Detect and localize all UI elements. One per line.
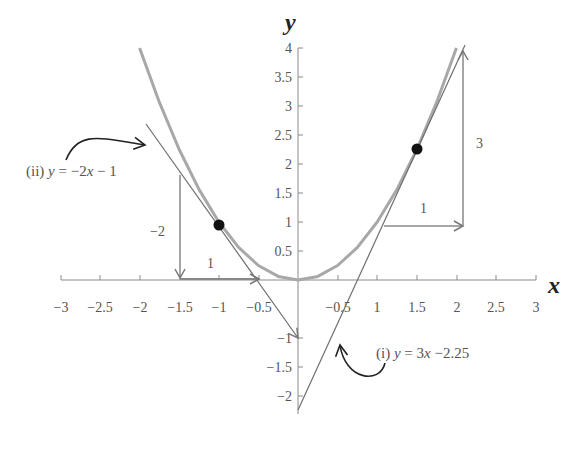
x-tick-label: −3 <box>54 300 69 315</box>
tangent-lines-chart: −3−2.5−2−1.5−1−0.5−0.511.522.53 43.532.5… <box>0 0 581 458</box>
x-tick-label: −2.5 <box>87 300 112 315</box>
run-label-ii: 1 <box>207 256 214 271</box>
x-tick-label: 2 <box>454 300 461 315</box>
y-tick-label: 1.5 <box>275 186 293 201</box>
x-tick-label: 1.5 <box>408 300 426 315</box>
x-tick-label: −2 <box>133 300 148 315</box>
y-tick-label: 1 <box>285 215 292 230</box>
rise-label-ii: −2 <box>150 224 165 239</box>
tangent-point-i <box>412 144 423 155</box>
tangent-point-ii <box>214 220 225 231</box>
y-tick-label: 3.5 <box>275 70 293 85</box>
equation-label-ii: (ii) y = −2x − 1 <box>26 163 117 180</box>
equation-label-i: (i) y = 3x −2.25 <box>376 345 469 362</box>
y-axis-title: y <box>282 9 296 35</box>
x-tick-label: −1 <box>212 300 227 315</box>
pointer-arrow-ii-icon <box>66 138 145 160</box>
y-tick-label: −1.5 <box>267 360 292 375</box>
x-tick-label: 2.5 <box>487 300 505 315</box>
rise-label-i: 3 <box>476 136 483 151</box>
x-axis-title: x <box>547 272 560 298</box>
x-tick-label: −0.5 <box>246 300 271 315</box>
x-tick-label: 3 <box>533 300 540 315</box>
y-tick-label: −1 <box>277 331 292 346</box>
y-tick-label: 3 <box>285 99 292 114</box>
x-tick-label: −1.5 <box>167 300 192 315</box>
x-tick-label: 1 <box>374 300 381 315</box>
y-tick-label: 2 <box>285 157 292 172</box>
y-tick-label: 4 <box>285 41 292 56</box>
y-tick-label: −2 <box>277 389 292 404</box>
y-tick-label: 2.5 <box>275 128 293 143</box>
run-label-i: 1 <box>420 201 427 216</box>
y-tick-label: 0.5 <box>275 244 293 259</box>
